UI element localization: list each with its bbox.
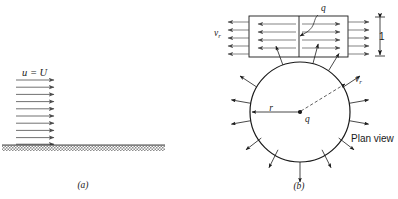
radial-velocity-label-plan: vr — [355, 74, 362, 85]
inner-left-flow-arrows — [258, 24, 296, 48]
panel-b-plan-group: vr r q Plan view (b) — [231, 44, 394, 192]
outer-left-flow-arrows — [228, 22, 249, 54]
flat-plate-ground — [2, 145, 165, 151]
outer-right-flow-arrows — [348, 22, 369, 54]
source-strength-leader-line — [300, 15, 318, 36]
source-strength-label-plan: q — [305, 114, 310, 124]
radius-label: r — [269, 103, 273, 113]
figure-container: u = U (a) — [0, 0, 398, 199]
panel-b-elevation-group: vr q 1 — [214, 3, 385, 57]
panel-b-tag: (b) — [293, 181, 304, 192]
uniform-flow-arrows — [16, 80, 54, 144]
panel-a-group: u = U (a) — [2, 67, 165, 191]
radial-velocity-vector — [301, 84, 345, 111]
source-control-volume-rect — [249, 16, 348, 57]
inner-right-flow-arrows — [302, 24, 340, 48]
panel-a-tag: (a) — [77, 180, 88, 191]
unit-height-label: 1 — [379, 31, 385, 42]
source-center-dot — [298, 110, 302, 114]
radial-velocity-label-elevation: vr — [214, 28, 221, 39]
source-strength-label-elevation: q — [321, 3, 326, 13]
technical-figure-svg: u = U (a) — [0, 0, 398, 199]
inlet-velocity-label: u = U — [22, 67, 49, 78]
plan-view-label: Plan view — [351, 133, 395, 144]
